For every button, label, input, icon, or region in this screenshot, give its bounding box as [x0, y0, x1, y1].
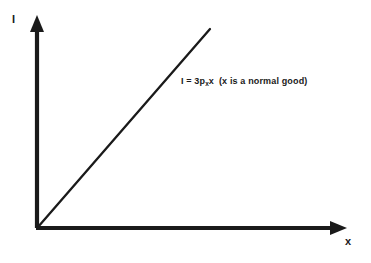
income-expansion-path-chart: I x I = 3pxx(x is a normal good) [0, 0, 371, 263]
data-series-line [38, 29, 210, 227]
y-axis-label: I [12, 14, 15, 25]
y-axis-arrowhead [30, 15, 44, 32]
series-annotation-label: I = 3pxx(x is a normal good) [181, 77, 307, 87]
x-axis-label: x [345, 236, 351, 247]
annotation-equation-subscript: x [205, 80, 209, 87]
annotation-parenthetical: (x is a normal good) [219, 76, 308, 86]
annotation-equation-suffix: x [209, 76, 214, 86]
x-axis-arrowhead [330, 221, 347, 235]
chart-canvas [0, 0, 371, 263]
annotation-equation-prefix: I = 3p [181, 76, 205, 86]
